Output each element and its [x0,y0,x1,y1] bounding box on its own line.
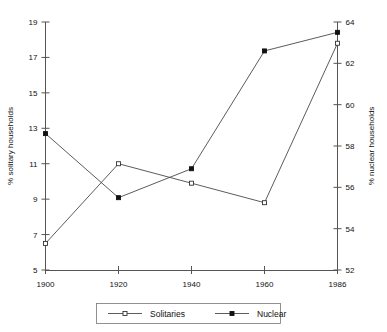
x-axis-ticklabel: 1920 [110,280,128,289]
legend-label: Nuclear [257,309,286,319]
left-axis-ticklabel: 17 [29,53,38,62]
right-axis-ticklabel: 54 [346,225,355,234]
legend-label: Solitaries [150,309,185,319]
legend-marker [123,312,127,316]
x-axis-ticklabel: 1986 [329,280,347,289]
right-axis-title: % nuclear households [367,107,376,186]
x-axis-ticklabel: 1960 [256,280,274,289]
data-point [190,167,194,171]
right-axis-ticklabel: 60 [346,101,355,110]
right-axis-ticklabel: 56 [346,183,355,192]
data-point [44,241,48,245]
left-axis-ticklabel: 5 [33,266,38,275]
left-axis-ticklabel: 7 [33,231,38,240]
left-axis-ticklabel: 11 [29,160,38,169]
left-axis-ticklabel: 15 [29,89,38,98]
data-point [263,49,267,53]
right-axis-ticklabel: 62 [346,59,355,68]
data-point [263,201,267,205]
x-axis-ticklabel: 1940 [183,280,201,289]
chart-container: 5791113151719 % solitary households 5254… [0,0,387,332]
data-point [190,181,194,185]
left-axis-ticklabel: 9 [33,195,38,204]
line-chart: 5791113151719 % solitary households 5254… [0,0,387,332]
data-point [44,132,48,136]
x-axis-ticklabel: 1900 [37,280,55,289]
data-point [336,30,340,34]
data-point [336,41,340,45]
right-axis-ticklabel: 52 [346,266,355,275]
right-axis-ticklabel: 58 [346,142,355,151]
left-axis-title: % solitary households [6,107,15,185]
right-axis-ticklabel: 64 [346,18,355,27]
legend-marker [230,312,234,316]
left-axis-ticklabel: 13 [29,124,38,133]
data-point [117,196,121,200]
data-point [117,162,121,166]
left-axis-ticklabel: 19 [29,18,38,27]
